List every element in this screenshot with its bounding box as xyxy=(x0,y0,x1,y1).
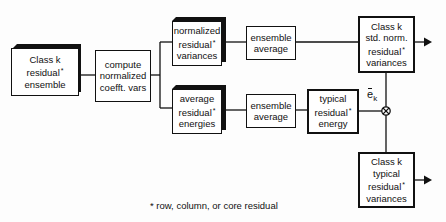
footnote-star: * xyxy=(61,67,64,74)
footnote-star: * xyxy=(213,107,216,114)
node-line: normalized xyxy=(174,25,220,36)
node-line: typical xyxy=(366,168,407,180)
node-typical-residual-energy: typical residual* energy xyxy=(307,89,359,134)
node-average-residual-energies: average residual* energies xyxy=(170,85,226,134)
node-line: energies xyxy=(179,118,215,129)
node-line: average xyxy=(250,43,291,55)
node-line: residual xyxy=(368,46,401,57)
node-line: typical xyxy=(314,93,351,105)
node-line: compute xyxy=(100,59,146,71)
footnote: * row, column, or core residual xyxy=(150,200,278,211)
node-line: average xyxy=(180,93,214,104)
node-ensemble-average-top: ensemble average xyxy=(246,26,296,60)
node-line: residual xyxy=(178,39,211,50)
node-normalized-residual-variances: normalized residual* variances xyxy=(170,17,226,66)
multiply-node-icon xyxy=(382,107,390,115)
footnote-star: * xyxy=(402,46,405,53)
node-line: variances xyxy=(177,50,218,61)
node-line: std. norm. xyxy=(365,32,407,44)
node-class-typical-variances: Class k typical residual* variances xyxy=(358,152,415,208)
node-line: Class k xyxy=(29,54,60,65)
node-line: ensemble xyxy=(250,32,291,44)
node-line: residual xyxy=(368,181,401,192)
node-line: energy xyxy=(314,118,351,130)
node-line: Class k xyxy=(366,156,407,168)
node-line: Class k xyxy=(365,21,407,33)
label-subscript: k xyxy=(373,94,377,103)
node-line: ensemble xyxy=(24,79,65,90)
node-class-std-norm-variances: Class k std. norm. residual* variances xyxy=(358,16,415,73)
node-line: variances xyxy=(366,193,407,205)
mean-energy-label: ek xyxy=(367,89,377,104)
node-line: residual xyxy=(314,107,347,118)
node-line: variances xyxy=(365,57,407,69)
diagram-canvas: Class k residual* ensemble compute norma… xyxy=(0,0,446,222)
node-class-residual-ensemble: Class k residual* ensemble xyxy=(11,44,83,96)
footnote-star: * xyxy=(349,107,352,114)
node-line: residual xyxy=(178,107,211,118)
node-line: normalized xyxy=(100,70,146,82)
footnote-star: * xyxy=(213,39,216,46)
node-line: ensemble xyxy=(250,100,291,112)
node-line: coefft. vars xyxy=(100,82,146,94)
node-line: residual xyxy=(26,67,59,78)
footnote-star: * xyxy=(402,181,405,188)
node-line: average xyxy=(250,111,291,123)
node-compute-normalized: compute normalized coefft. vars xyxy=(95,50,151,102)
label-base: e xyxy=(367,89,373,100)
node-ensemble-average-bottom: ensemble average xyxy=(246,94,296,128)
